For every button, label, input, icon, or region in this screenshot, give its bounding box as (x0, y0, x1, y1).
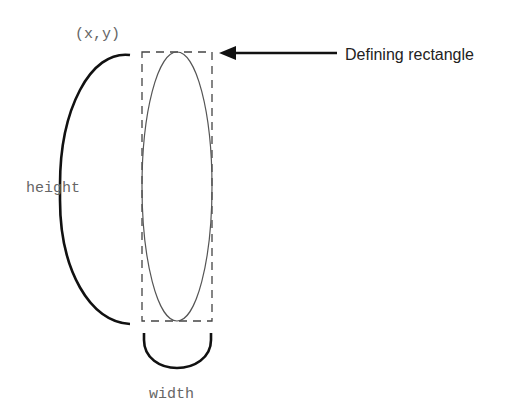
width-label: width (149, 386, 194, 403)
height-label: height (26, 180, 80, 197)
width-brace (144, 333, 211, 368)
ellipse-diagram: (x,y) height width Defining rectangle (0, 0, 531, 412)
origin-label: (x,y) (75, 26, 120, 43)
arrow-head-icon (219, 46, 236, 60)
diagram-svg: (x,y) height width Defining rectangle (0, 0, 531, 412)
callout-label: Defining rectangle (345, 46, 474, 63)
ellipse (142, 52, 212, 321)
